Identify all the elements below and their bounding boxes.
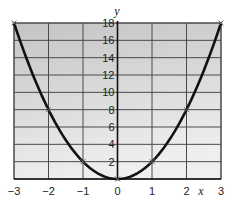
y-axis-label: y [113, 4, 120, 18]
y-tick-label: 2 [108, 156, 114, 168]
x-tick-label: 3 [218, 185, 224, 197]
y-tick-label: 6 [108, 121, 114, 133]
x-tick-label: −1 [77, 185, 90, 197]
y-tick-label: 12 [102, 69, 114, 81]
x-tick-label: 2 [183, 185, 189, 197]
y-tick-label: 14 [102, 52, 114, 64]
y-tick-label: 8 [108, 104, 114, 116]
y-tick-label: 18 [102, 17, 114, 29]
x-tick-label: −2 [42, 185, 55, 197]
x-axis-label: x [197, 184, 204, 198]
x-tick-labels: −3−2−10123 [8, 185, 224, 197]
y-tick-label: 16 [102, 34, 114, 46]
x-tick-label: −3 [8, 185, 21, 197]
x-tick-label: 1 [149, 185, 155, 197]
x-tick-label: 0 [114, 185, 120, 197]
parabola-chart: −3−2−10123 24681012141618 x y [0, 0, 229, 201]
y-tick-label: 4 [108, 138, 114, 150]
y-tick-label: 10 [102, 86, 114, 98]
